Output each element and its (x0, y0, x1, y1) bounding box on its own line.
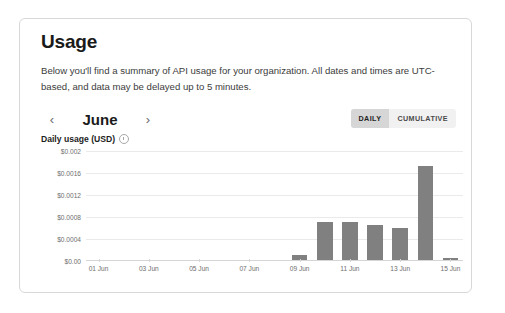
x-axis-tick-mark (350, 259, 351, 262)
chevron-left-icon[interactable]: ‹ (41, 108, 63, 130)
plot-area (86, 151, 463, 261)
x-axis-tick-label: 07 Jun (239, 265, 259, 272)
x-axis-tick-label: 11 Jun (340, 265, 359, 272)
x-axis-line (86, 260, 463, 261)
screenshot-root: Usage Below you'll find a summary of API… (0, 0, 505, 313)
y-axis-tick-label: $0.0012 (57, 192, 81, 199)
y-axis-tick-label: $0.0008 (57, 214, 81, 221)
bar[interactable] (418, 166, 434, 260)
x-axis: 01 Jun03 Jun05 Jun07 Jun09 Jun11 Jun13 J… (86, 263, 463, 281)
x-axis-tick-mark (400, 259, 401, 262)
intro-paragraph: Below you'll find a summary of API usage… (41, 63, 455, 95)
usage-view-toggle: DAILY CUMULATIVE (351, 109, 457, 128)
page-title: Usage (41, 31, 97, 53)
tab-cumulative[interactable]: CUMULATIVE (389, 109, 456, 128)
x-axis-tick-mark (249, 259, 250, 262)
y-axis: $0.002$0.0016$0.0012$0.0008$0.0004$0.00 (30, 151, 86, 261)
bar[interactable] (367, 225, 383, 260)
y-axis-tick-label: $0.0004 (57, 236, 81, 243)
chart-title: Daily usage (USD) (41, 134, 115, 144)
daily-usage-bar-chart: $0.002$0.0016$0.0012$0.0008$0.0004$0.00 … (30, 151, 467, 289)
bar[interactable] (392, 228, 408, 260)
bar[interactable] (317, 222, 333, 260)
info-circle-icon[interactable] (119, 134, 129, 144)
x-axis-tick-mark (149, 259, 150, 262)
bar-series (86, 151, 463, 260)
x-axis-tick-mark (199, 259, 200, 262)
chevron-right-icon[interactable]: › (137, 108, 159, 130)
usage-card: Usage Below you'll find a summary of API… (19, 18, 472, 293)
x-axis-tick-label: 01 Jun (89, 265, 109, 272)
y-axis-tick-label: $0.002 (61, 148, 81, 155)
x-axis-tick-label: 05 Jun (189, 265, 209, 272)
x-axis-tick-label: 13 Jun (390, 265, 410, 272)
current-month-label: June (63, 111, 137, 128)
bar[interactable] (342, 222, 358, 260)
month-navigation: ‹ June › (41, 108, 159, 130)
x-axis-tick-mark (450, 259, 451, 262)
x-axis-tick-label: 09 Jun (290, 265, 310, 272)
chart-header: Daily usage (USD) (41, 134, 129, 144)
y-axis-tick-label: $0.00 (64, 258, 81, 265)
x-axis-tick-label: 03 Jun (139, 265, 159, 272)
x-axis-tick-mark (300, 259, 301, 262)
y-axis-tick-label: $0.0016 (57, 170, 81, 177)
x-axis-tick-label: 15 Jun (441, 265, 461, 272)
x-axis-tick-mark (99, 259, 100, 262)
tab-daily[interactable]: DAILY (351, 109, 390, 128)
